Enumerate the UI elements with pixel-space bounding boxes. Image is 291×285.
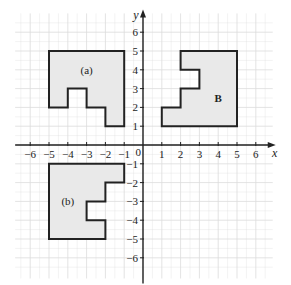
y-tick-label: 3 [133,83,139,95]
y-axis-label: y [132,8,139,22]
y-tick-label: 4 [133,64,139,76]
x-tick-label: 5 [234,148,240,160]
shape-a-label: (a) [80,64,93,77]
coordinate-grid: (a)B(b)−6−5−4−3−2−1123456654321−1−2−3−4−… [0,0,291,285]
y-tick-label: 6 [133,26,139,38]
y-tick-label: −6 [126,252,138,264]
x-tick-label: −3 [81,148,93,160]
x-tick-label: 2 [178,148,184,160]
y-tick-label: −4 [126,214,138,226]
y-tick-label: −3 [126,195,138,207]
x-tick-label: 1 [159,148,165,160]
y-tick-label: −5 [126,233,138,245]
x-axis-label: x [271,146,278,160]
shape-b-lower-label: (b) [61,195,74,208]
x-tick-label: −5 [43,148,55,160]
shape-b-upper-label: B [215,92,223,104]
x-tick-label: −2 [100,148,112,160]
x-tick-label: −4 [62,148,74,160]
x-tick-label: 4 [215,148,221,160]
x-tick-label: 3 [197,148,203,160]
x-tick-label: −6 [24,148,36,160]
y-tick-label: 1 [133,120,139,132]
y-tick-label: −2 [126,177,138,189]
origin-label: 0 [136,146,142,158]
y-axis-arrow-icon [140,9,146,17]
x-tick-label: 6 [253,148,259,160]
y-tick-label: −1 [126,158,138,170]
y-tick-label: 5 [133,45,139,57]
y-tick-label: 2 [133,101,139,113]
